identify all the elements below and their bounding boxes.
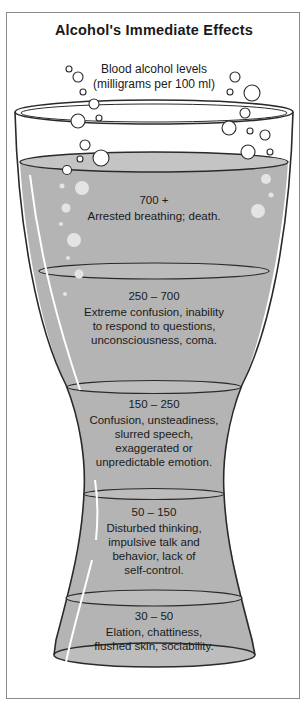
divider-50: [84, 489, 224, 500]
band-effect-line: Extreme confusion, inability: [0, 305, 308, 319]
band-30-50: 30 – 50 Elation, chattiness, flushed ski…: [0, 609, 308, 653]
band-50-150: 50 – 150 Disturbed thinking, impulsive t…: [0, 505, 308, 577]
divider-250: [39, 263, 269, 279]
band-range: 700 +: [0, 193, 308, 207]
band-range: 150 – 250: [0, 397, 308, 411]
band-150-250: 150 – 250 Confusion, unsteadiness, slurr…: [0, 397, 308, 469]
band-effect-line: self-control.: [0, 563, 308, 577]
glass-illustration: [0, 0, 308, 705]
band-effect-line: impulsive talk and: [0, 535, 308, 549]
band-effect-line: unpredictable emotion.: [0, 455, 308, 469]
band-effect-line: Elation, chattiness,: [0, 625, 308, 639]
divider-150: [67, 381, 241, 394]
band-range: 50 – 150: [0, 505, 308, 519]
band-effect-line: slurred speech,: [0, 427, 308, 441]
band-effect-line: Arrested breathing; death.: [0, 209, 308, 223]
band-effect-line: to respond to questions,: [0, 319, 308, 333]
band-range: 30 – 50: [0, 609, 308, 623]
divider-30: [66, 590, 242, 606]
band-700-plus: 700 + Arrested breathing; death.: [0, 193, 308, 223]
band-effect-line: flushed skin, sociability.: [0, 639, 308, 653]
band-effect-line: unconsciousness, coma.: [0, 333, 308, 347]
band-effect-line: Confusion, unsteadiness,: [0, 413, 308, 427]
band-effect-line: behavior, lack of: [0, 549, 308, 563]
band-range: 250 – 700: [0, 289, 308, 303]
band-effect-line: exaggerated or: [0, 441, 308, 455]
band-250-700: 250 – 700 Extreme confusion, inability t…: [0, 289, 308, 347]
band-effect-line: Disturbed thinking,: [0, 521, 308, 535]
